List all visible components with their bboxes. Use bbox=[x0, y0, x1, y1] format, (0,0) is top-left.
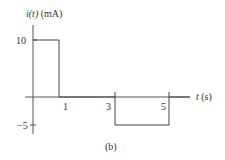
current-waveform-chart: i(t) (mA) 10 −5 1 3 5 t (s) (b) bbox=[0, 0, 225, 160]
figure-caption: (b) bbox=[105, 141, 117, 153]
x-tick-label-3: 3 bbox=[106, 101, 111, 112]
x-tick-label-1: 1 bbox=[63, 101, 68, 112]
x-axis-label: t (s) bbox=[196, 91, 212, 103]
y-tick-label-10: 10 bbox=[16, 35, 26, 46]
y-tick-label-neg5: −5 bbox=[17, 120, 28, 131]
y-axis-label: i(t) (mA) bbox=[26, 8, 62, 20]
current-waveform bbox=[33, 40, 190, 125]
x-tick-label-5: 5 bbox=[161, 101, 166, 112]
